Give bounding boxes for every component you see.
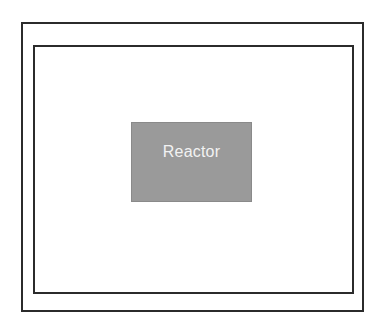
diagram-canvas: Reactor — [0, 0, 382, 325]
reactor-label: Reactor — [163, 144, 220, 160]
reactor-block: Reactor — [131, 122, 252, 202]
